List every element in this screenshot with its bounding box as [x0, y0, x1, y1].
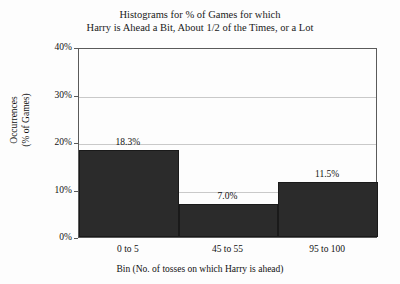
x-axis-title: Bin (No. of tosses on which Harry is ahe…: [0, 264, 400, 274]
chart-title-line-1: Histograms for % of Games for which: [0, 8, 400, 21]
bar-value-label: 11.5%: [315, 169, 339, 179]
chart-title: Histograms for % of Games for which Harr…: [0, 8, 400, 34]
y-axis-tick-label: 40%: [12, 42, 72, 52]
x-axis-tick-label: 95 to 100: [309, 244, 345, 254]
y-axis-tick-mark: [74, 238, 78, 239]
bar[interactable]: [278, 182, 378, 237]
y-axis-title-line-1: Occurrences: [8, 50, 20, 190]
bar[interactable]: [179, 204, 279, 237]
y-axis-tick-label: 0%: [12, 232, 72, 242]
x-axis-tick-label: 0 to 5: [117, 244, 139, 254]
bar[interactable]: [79, 150, 179, 237]
x-axis-tick-label: 45 to 55: [212, 244, 243, 254]
bar-value-label: 18.3%: [116, 137, 141, 147]
y-axis-tick-label: 10%: [12, 185, 72, 195]
y-axis-tick-label: 30%: [12, 90, 72, 100]
bar-value-label: 7.0%: [218, 191, 238, 201]
y-axis-title-line-2: (% of Games): [20, 50, 32, 190]
chart-title-line-2: Harry is Ahead a Bit, About 1/2 of the T…: [0, 21, 400, 34]
y-axis-title: Occurrences (% of Games): [8, 50, 32, 190]
y-axis-tick-label: 20%: [12, 137, 72, 147]
